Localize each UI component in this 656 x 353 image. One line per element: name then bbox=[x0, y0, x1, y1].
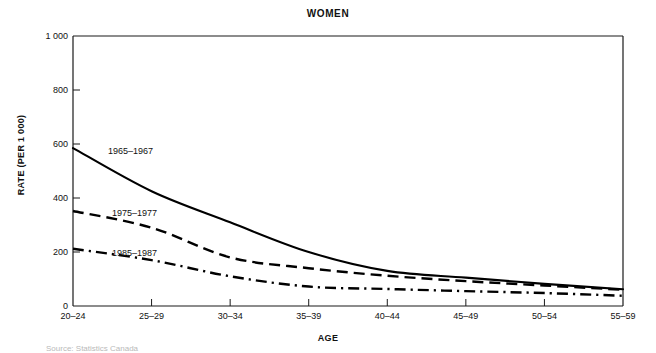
series-line bbox=[73, 148, 623, 289]
plot-canvas bbox=[0, 0, 656, 353]
x-axis-label: AGE bbox=[0, 333, 656, 343]
axes bbox=[73, 36, 623, 306]
x-tick-label: 30–34 bbox=[195, 311, 265, 321]
series-lines bbox=[73, 148, 623, 296]
x-tick-label: 35–39 bbox=[274, 311, 344, 321]
figure-caption: Source: Statistics Canada bbox=[46, 344, 138, 353]
chart-figure: WOMEN RATE (PER 1 000) 1 000 800 600 400… bbox=[0, 0, 656, 353]
y-tick-marks bbox=[73, 90, 80, 252]
x-tick-label: 20–24 bbox=[38, 311, 108, 321]
x-tick-label: 25–29 bbox=[117, 311, 187, 321]
x-tick-label: 50–54 bbox=[509, 311, 579, 321]
x-tick-label: 55–59 bbox=[588, 311, 656, 321]
series-label: 1985–1987 bbox=[112, 248, 157, 258]
x-tick-marks bbox=[152, 299, 545, 306]
x-tick-label: 40–44 bbox=[352, 311, 422, 321]
series-label: 1965–1967 bbox=[108, 146, 153, 156]
series-label: 1975–1977 bbox=[112, 208, 157, 218]
x-tick-label: 45–49 bbox=[431, 311, 501, 321]
